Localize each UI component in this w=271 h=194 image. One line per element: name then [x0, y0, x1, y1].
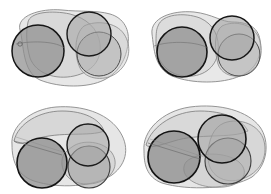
large-dark-circle — [157, 27, 207, 77]
upper-right-circle — [67, 124, 109, 166]
upper-right-circle — [67, 12, 111, 56]
panel-top-left — [0, 0, 136, 97]
panel-bottom-right-canvas — [136, 97, 271, 194]
upper-right-circle — [198, 115, 246, 163]
panel-bottom-left-canvas — [0, 97, 136, 194]
panel-bottom-right — [136, 97, 271, 194]
panel-top-left-canvas — [0, 0, 136, 97]
figure-root — [0, 0, 271, 194]
panel-bottom-left — [0, 97, 136, 194]
panel-top-right — [136, 0, 271, 97]
large-dark-circle — [12, 25, 64, 77]
panel-top-right-canvas — [136, 0, 271, 97]
panel-grid — [0, 0, 271, 194]
upper-right-circle — [210, 16, 254, 60]
